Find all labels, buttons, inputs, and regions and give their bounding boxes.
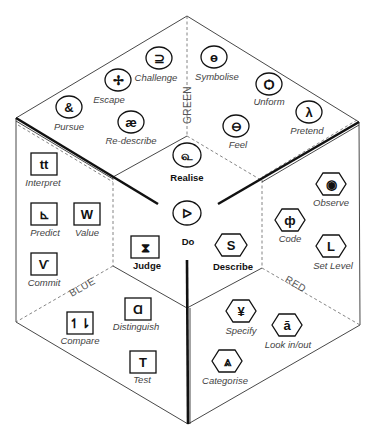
commit-icon: Ѵ xyxy=(39,257,50,272)
item-label: Specify xyxy=(225,325,257,336)
cube-diagram: GREEN BLUE RED ⊇ Challenge ✢ Escape & Pu… xyxy=(0,0,374,438)
symbolise-icon: ɵ xyxy=(210,50,218,65)
item-label: Test xyxy=(133,374,151,385)
item-label: Code xyxy=(279,233,302,244)
item-interpret[interactable]: tt Interpret xyxy=(25,153,61,188)
set-level-icon: L xyxy=(327,239,335,254)
judge-icon: ⧗ xyxy=(141,240,150,255)
item-distinguish[interactable]: Ɑ Distinguish xyxy=(113,298,159,332)
observe-icon: ◉ xyxy=(326,177,337,192)
item-observe[interactable]: ◉ Observe xyxy=(313,173,349,208)
item-test[interactable]: T Test xyxy=(130,351,156,385)
item-label: Set Level xyxy=(313,260,353,271)
item-label: Pursue xyxy=(54,121,84,132)
look-in-out-icon: ā xyxy=(283,318,291,333)
item-label: Compare xyxy=(60,335,99,346)
realise-icon: ௳ xyxy=(181,148,193,163)
item-set-level[interactable]: L Set Level xyxy=(313,235,353,271)
item-label: Feel xyxy=(229,139,248,150)
distinguish-icon: Ɑ xyxy=(133,302,143,317)
item-label: Escape xyxy=(93,94,125,105)
categorise-icon: ⩓ xyxy=(223,354,232,369)
item-compare[interactable]: ↿⇂ Compare xyxy=(60,312,99,346)
face-label-blue: BLUE xyxy=(67,275,97,299)
item-label: Describe xyxy=(213,261,253,272)
value-icon: W xyxy=(81,207,94,222)
item-describe[interactable]: S Describe xyxy=(213,234,253,272)
item-value[interactable]: W Value xyxy=(74,203,100,238)
item-escape[interactable]: ✢ Escape xyxy=(93,69,131,105)
item-label: Challenge xyxy=(135,72,178,83)
predict-icon: ⊾ xyxy=(39,207,50,222)
item-commit[interactable]: Ѵ Commit xyxy=(28,253,61,288)
item-label: Judge xyxy=(133,260,161,271)
item-feel[interactable]: ⊖ Feel xyxy=(223,115,249,150)
item-categorise[interactable]: ⩓ Categorise xyxy=(202,350,248,386)
test-icon: T xyxy=(139,355,147,370)
item-label: Pretend xyxy=(290,125,324,136)
face-label-red: RED xyxy=(283,274,308,295)
item-label: Realise xyxy=(170,172,203,183)
item-specify[interactable]: ¥ Specify xyxy=(225,300,257,336)
item-label: Distinguish xyxy=(113,321,159,332)
unform-icon: Ѻ xyxy=(264,77,275,92)
interpret-icon: tt xyxy=(40,157,49,172)
re-describe-icon: æ xyxy=(125,115,137,130)
item-pursue[interactable]: & Pursue xyxy=(54,96,84,132)
item-predict[interactable]: ⊾ Predict xyxy=(30,203,60,238)
red-face: ◉ Observe ф Code L Set Level ¥ Specify ā… xyxy=(202,173,354,386)
item-label: Symbolise xyxy=(195,71,239,82)
do-icon: ᐅ xyxy=(182,206,192,221)
feel-icon: ⊖ xyxy=(231,119,242,134)
item-label: Do xyxy=(182,236,195,247)
item-label: Interpret xyxy=(25,177,61,188)
item-unform[interactable]: Ѻ Unform xyxy=(253,73,284,107)
item-label: Categorise xyxy=(202,375,248,386)
item-judge[interactable]: ⧗ Judge xyxy=(131,236,161,271)
item-label: Predict xyxy=(30,227,60,238)
specify-icon: ¥ xyxy=(237,304,245,319)
item-label: Value xyxy=(75,227,99,238)
center-items: ௳ Realise ᐅ Do ⧗ Judge S Describe xyxy=(131,143,253,272)
compare-icon: ↿⇂ xyxy=(69,316,91,331)
item-label: Commit xyxy=(28,277,61,288)
item-label: Observe xyxy=(313,197,349,208)
item-re-describe[interactable]: æ Re-describe xyxy=(105,111,156,146)
item-label: Re-describe xyxy=(105,135,156,146)
item-pretend[interactable]: λ Pretend xyxy=(290,101,324,136)
challenge-icon: ⊇ xyxy=(154,51,165,66)
item-code[interactable]: ф Code xyxy=(275,209,305,244)
item-challenge[interactable]: ⊇ Challenge xyxy=(135,47,178,83)
pursue-icon: & xyxy=(64,100,73,115)
item-symbolise[interactable]: ɵ Symbolise xyxy=(195,46,239,82)
item-label: Look in/out xyxy=(265,339,312,350)
item-do[interactable]: ᐅ Do xyxy=(173,201,201,247)
describe-icon: S xyxy=(227,238,236,253)
item-realise[interactable]: ௳ Realise xyxy=(170,143,203,183)
code-icon: ф xyxy=(284,213,295,228)
pretend-icon: λ xyxy=(305,105,313,120)
item-look-in-out[interactable]: ā Look in/out xyxy=(265,314,312,350)
face-label-green: GREEN xyxy=(182,86,193,124)
item-label: Unform xyxy=(253,96,284,107)
escape-icon: ✢ xyxy=(113,73,124,88)
